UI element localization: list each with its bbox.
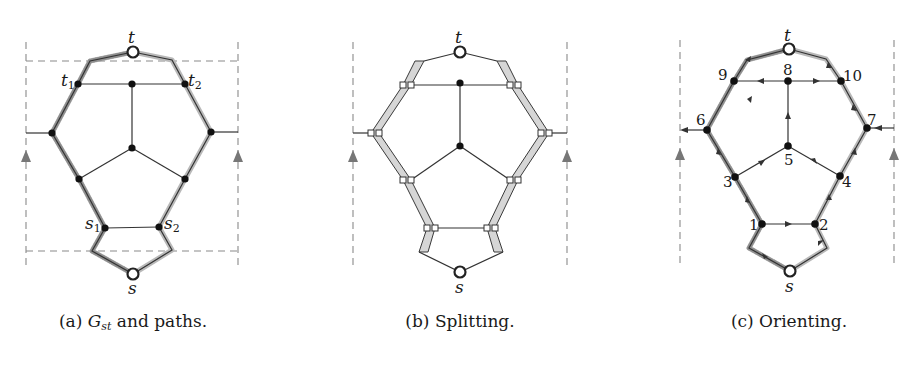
up-arrow-icon <box>348 150 358 162</box>
up-arrow-icon <box>889 148 899 160</box>
node-t <box>128 47 139 58</box>
label-t2: t2 <box>188 70 202 92</box>
node-s <box>785 266 796 277</box>
up-arrow-icon <box>233 150 243 162</box>
label-9: 9 <box>718 66 728 84</box>
node-2 <box>811 220 819 228</box>
panel-a: t s t1 t2 s1 s2 (a) Gst and paths. <box>21 27 243 333</box>
label-t: t <box>455 27 462 47</box>
label-s: s <box>455 277 464 297</box>
panel-c: t s 9 8 10 6 7 5 3 4 1 2 (c) Orienting. <box>675 25 899 331</box>
node-s1 <box>101 224 108 231</box>
node-t1 <box>74 80 81 87</box>
arrow-icon <box>747 96 752 103</box>
left-split-band <box>371 61 435 252</box>
label-t: t <box>128 27 135 47</box>
label-t: t <box>784 25 791 45</box>
arrow-right-icon <box>785 221 792 227</box>
label-s: s <box>785 276 794 296</box>
label-s: s <box>128 278 137 298</box>
label-s2: s2 <box>164 213 180 235</box>
label-1: 1 <box>749 216 759 234</box>
label-8: 8 <box>783 61 793 79</box>
panel-b: t s (b) Splitting. <box>348 27 572 331</box>
caption-a: (a) Gst and paths. <box>59 311 207 333</box>
label-5: 5 <box>784 151 794 169</box>
up-arrow-icon <box>21 150 31 162</box>
node-t <box>784 44 795 55</box>
label-10: 10 <box>843 67 862 85</box>
arrow-left-icon <box>757 78 764 84</box>
node-s2 <box>155 223 162 230</box>
arrow-up-icon <box>785 112 791 119</box>
node-5 <box>784 142 792 150</box>
node-t <box>455 47 466 58</box>
label-7: 7 <box>867 111 877 129</box>
arrow-left-icon <box>680 127 688 133</box>
label-3: 3 <box>723 173 733 191</box>
caption-b: (b) Splitting. <box>405 311 514 331</box>
label-6: 6 <box>696 111 706 129</box>
label-2: 2 <box>819 216 829 234</box>
node-9 <box>730 77 738 85</box>
right-split-band <box>487 61 549 252</box>
arrow-icon <box>810 158 817 164</box>
label-t1: t1 <box>61 70 75 92</box>
label-4: 4 <box>842 173 852 191</box>
node-s <box>455 267 466 278</box>
up-arrow-icon <box>675 148 685 160</box>
up-arrow-icon <box>562 150 572 162</box>
caption-c: (c) Orienting. <box>731 311 847 331</box>
arrow-right-icon <box>813 78 820 84</box>
figure-canvas: t s t1 t2 s1 s2 (a) Gst and paths. <box>0 0 913 365</box>
node-1 <box>758 220 766 228</box>
